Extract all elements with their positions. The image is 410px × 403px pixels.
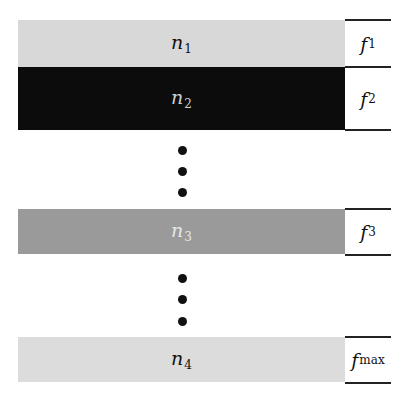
freq-label-f3: f3 (345, 209, 391, 254)
ellipsis-dot (178, 188, 187, 197)
freq-label-f2: f2 (345, 67, 391, 130)
ellipsis-dot (178, 295, 187, 304)
freq-label-f1: f1 (345, 20, 391, 67)
ellipsis-dot (178, 317, 187, 326)
band-label-n2: n2 (171, 86, 192, 111)
freq-divider-line (345, 254, 391, 256)
ellipsis-dot (178, 167, 187, 176)
band-label-n1: n1 (171, 31, 192, 56)
band-n1: n1 (18, 20, 345, 67)
band-n2: n2 (18, 67, 345, 130)
band-n3: n3 (18, 209, 345, 254)
freq-divider-line (345, 382, 391, 384)
ellipsis-dot (178, 146, 187, 155)
band-label-n3: n3 (171, 219, 192, 244)
ellipsis-dot (178, 274, 187, 283)
freq-label-fmax: fmax (345, 337, 391, 382)
band-n4: n4 (18, 337, 345, 382)
band-label-n4: n4 (171, 347, 192, 372)
